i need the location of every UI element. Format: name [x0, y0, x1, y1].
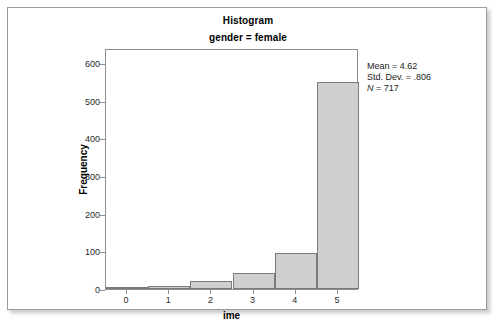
x-axis-label: ime — [105, 310, 358, 321]
stat-n-value: = 717 — [374, 83, 399, 93]
y-axis-label-text: Frequency — [78, 144, 89, 195]
histogram-bar — [275, 253, 317, 289]
x-axis-tick-mark — [210, 290, 211, 294]
x-axis-tick-label: 5 — [322, 295, 352, 305]
histogram-bar — [106, 287, 148, 289]
x-axis-tick-mark — [168, 290, 169, 294]
histogram-bars — [106, 50, 357, 289]
histogram-bar — [233, 273, 275, 289]
x-axis-tick-label: 4 — [280, 295, 310, 305]
stat-std-dev: Std. Dev. = .806 — [367, 72, 431, 83]
x-axis-tick-mark — [253, 290, 254, 294]
statistics-annotation: Mean = 4.62 Std. Dev. = .806 N = 717 — [367, 61, 431, 94]
x-axis-tick-label: 1 — [153, 295, 183, 305]
y-axis-label: Frequency — [76, 49, 90, 290]
x-axis-tick-label: 2 — [195, 295, 225, 305]
x-axis-tick-mark — [337, 290, 338, 294]
y-axis-tick-mark — [100, 290, 105, 291]
stat-mean: Mean = 4.62 — [367, 61, 431, 72]
x-axis-tick-label: 3 — [238, 295, 268, 305]
figure-frame: Histogram gender = female 01002003004005… — [7, 7, 487, 310]
histogram-bar — [148, 286, 190, 289]
stat-n: N = 717 — [367, 83, 431, 94]
x-axis-tick-mark — [126, 290, 127, 294]
plot-area — [105, 49, 358, 290]
clipped-text-sliver — [0, 0, 501, 7]
x-axis-tick-label: 0 — [111, 295, 141, 305]
y-axis-ticks: 0100200300400500600 — [8, 8, 105, 328]
histogram-bar — [190, 281, 232, 289]
x-axis-tick-mark — [295, 290, 296, 294]
histogram-bar — [317, 82, 359, 289]
